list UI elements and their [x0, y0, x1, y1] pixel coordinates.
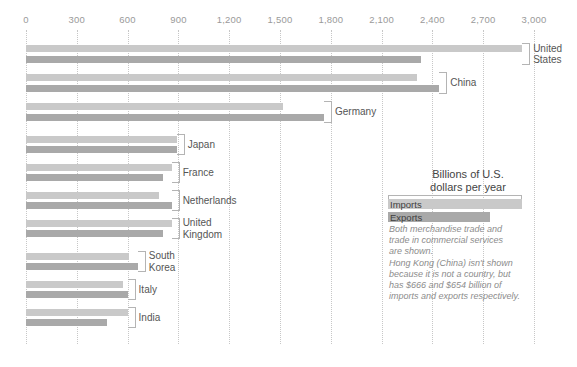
- country-bracket: [172, 162, 180, 183]
- country-label: Netherlands: [183, 195, 237, 207]
- bar-exports: [26, 114, 324, 121]
- country-bracket: [128, 307, 136, 328]
- bar-imports: [26, 281, 123, 288]
- country-label: China: [450, 77, 476, 89]
- bar-imports: [26, 74, 417, 81]
- bar-imports: [26, 136, 177, 143]
- country-label: France: [183, 167, 214, 179]
- bar-exports: [26, 146, 177, 153]
- country-bracket: [138, 251, 146, 272]
- country-label: Japan: [188, 139, 215, 151]
- trade-bar-chart: 03006009001,2001,5001,8002,1002,4002,700…: [0, 0, 577, 367]
- legend-label-exports: Exports: [390, 213, 422, 223]
- bar-imports: [26, 309, 128, 316]
- bar-exports: [26, 174, 163, 181]
- legend-title: Billions of U.S. dollars per year: [388, 168, 548, 193]
- country-bracket: [172, 190, 180, 211]
- country-label: South Korea: [149, 250, 176, 273]
- country-bracket: [177, 134, 185, 155]
- country-bracket: [522, 43, 530, 65]
- bar-exports: [26, 319, 107, 326]
- legend-rule: [388, 195, 522, 196]
- country-label: United Kingdom: [183, 217, 222, 240]
- bar-exports: [26, 56, 421, 63]
- bar-exports: [26, 202, 172, 209]
- bar-imports: [26, 253, 129, 260]
- country-bracket: [128, 279, 136, 300]
- country-label: India: [139, 312, 161, 324]
- bar-exports: [26, 230, 163, 237]
- bar-exports: [26, 85, 439, 92]
- country-label: Italy: [139, 284, 157, 296]
- legend-label-imports: Imports: [390, 200, 422, 210]
- bar-imports: [26, 45, 522, 52]
- bar-exports: [26, 291, 128, 298]
- country-label: Germany: [335, 106, 376, 118]
- country-bracket: [172, 218, 180, 239]
- bar-imports: [26, 192, 159, 199]
- bar-imports: [26, 220, 172, 227]
- legend-note-hong-kong: Hong Kong (China) isn't shown because it…: [389, 258, 557, 302]
- legend-note-trade-scope: Both merchandise trade and trade in comm…: [389, 224, 549, 257]
- country-bracket: [324, 101, 332, 123]
- bar-imports: [26, 164, 172, 171]
- bar-imports: [26, 103, 283, 110]
- country-bracket: [439, 72, 447, 94]
- country-label: United States: [533, 43, 562, 66]
- bar-exports: [26, 263, 138, 270]
